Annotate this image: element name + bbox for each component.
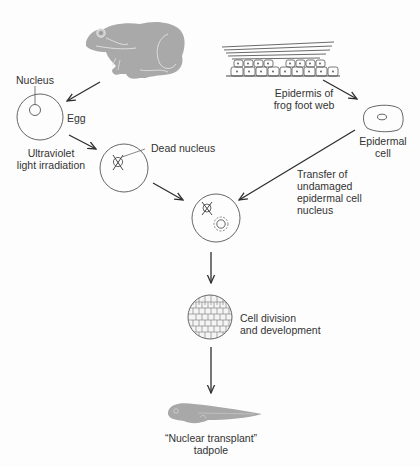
label-transfer-line2: undamaged xyxy=(297,180,362,192)
egg-cell xyxy=(17,86,63,140)
label-transfer-line4: nucleus xyxy=(297,204,362,216)
label-uv-irradiation: Ultraviolet light irradiation xyxy=(14,147,88,171)
tadpole-illustration xyxy=(168,403,262,423)
arrow-frog-to-egg xyxy=(67,82,100,101)
arrow-irradiated-to-recipient xyxy=(153,183,183,200)
label-tadpole: “Nuclear transplant” tadpole xyxy=(155,432,267,456)
label-nucleus: Nucleus xyxy=(16,74,54,86)
flow-arrows xyxy=(67,80,357,393)
label-epidermal-cell-line2: cell xyxy=(355,147,411,159)
label-transfer-line1: Transfer of xyxy=(297,168,362,180)
recipient-egg-cell xyxy=(192,194,240,242)
embryo-blastula xyxy=(188,295,232,340)
label-tadpole-line1: “Nuclear transplant” xyxy=(155,432,267,444)
diagram-art xyxy=(0,0,420,467)
label-transfer: Transfer of undamaged epidermal cell nuc… xyxy=(297,168,362,216)
epidermis-tissue-illustration xyxy=(222,42,340,76)
label-transfer-line3: epidermal cell xyxy=(297,192,362,204)
frog-illustration xyxy=(86,22,185,79)
label-epidermis: Epidermis of frog foot web xyxy=(272,87,336,111)
epidermal-cell xyxy=(363,105,403,132)
irradiated-egg-cell xyxy=(100,144,148,192)
label-dead-nucleus: Dead nucleus xyxy=(151,142,215,154)
label-cell-division-line1: Cell division xyxy=(240,312,321,324)
label-tadpole-line2: tadpole xyxy=(155,444,267,456)
label-uv-line1: Ultraviolet xyxy=(14,147,88,159)
label-epidermis-line2: frog foot web xyxy=(272,99,336,111)
label-cell-division-line2: and development xyxy=(240,324,321,336)
label-epidermal-cell: Epidermal cell xyxy=(355,135,411,159)
label-egg: Egg xyxy=(67,112,86,124)
label-cell-division: Cell division and development xyxy=(240,312,321,336)
label-uv-line2: light irradiation xyxy=(14,159,88,171)
label-epidermis-line1: Epidermis of xyxy=(272,87,336,99)
label-epidermal-cell-line1: Epidermal xyxy=(355,135,411,147)
diagram-canvas: Nucleus Egg Ultraviolet light irradiatio… xyxy=(0,0,420,467)
